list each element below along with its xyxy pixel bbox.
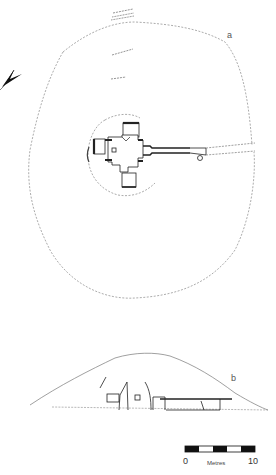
passage-tomb-chamber <box>94 123 255 187</box>
scale-unit-label: Metres <box>207 460 225 466</box>
scale-bar <box>185 446 255 452</box>
north-arrow-icon <box>0 70 22 90</box>
plan-label: a <box>227 30 232 40</box>
section-label: b <box>231 373 236 383</box>
kerb-marks <box>111 9 134 79</box>
scale-end-label: 10 <box>248 456 258 466</box>
scale-start-label: 0 <box>183 456 188 466</box>
diagram-canvas <box>0 0 276 475</box>
